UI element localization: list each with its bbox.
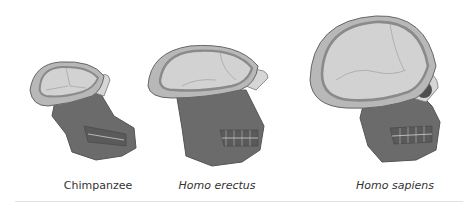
- chimpanzee-label: Chimpanzee: [64, 179, 132, 192]
- bottom-divider: [15, 201, 463, 202]
- homo-erectus-face: [176, 90, 264, 166]
- homo-sapiens-skull-illustration: [306, 10, 456, 166]
- skull-comparison-figure: Chimpanzee Homo erectus Homo sapiens: [0, 0, 468, 209]
- chimpanzee-skull-illustration: [26, 56, 138, 166]
- homo-erectus-skull-illustration: [146, 40, 280, 170]
- homo-sapiens-label: Homo sapiens: [356, 179, 434, 192]
- homo-erectus-label: Homo erectus: [178, 179, 255, 192]
